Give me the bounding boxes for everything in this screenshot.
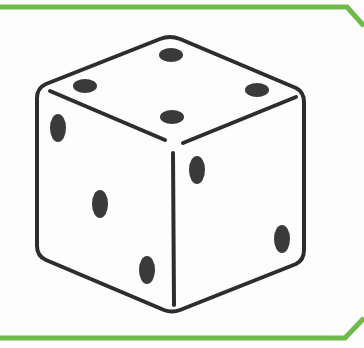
pip-icon	[139, 256, 155, 284]
pip-icon	[92, 190, 108, 218]
die-icon	[37, 37, 304, 312]
pip-icon	[274, 225, 290, 253]
pip-icon	[245, 83, 269, 97]
dice-illustration-panel: six-sided die	[0, 0, 364, 348]
frame-border-icon	[0, 7, 364, 26]
frame-border-bottom-icon	[0, 318, 364, 338]
dice-illustration	[0, 0, 364, 348]
left-face-pips	[50, 114, 155, 284]
right-face-pips	[189, 156, 290, 253]
pip-icon	[189, 156, 205, 184]
pip-icon	[50, 114, 66, 142]
pip-icon	[73, 79, 97, 93]
pip-icon	[159, 48, 183, 62]
pip-icon	[160, 110, 184, 124]
